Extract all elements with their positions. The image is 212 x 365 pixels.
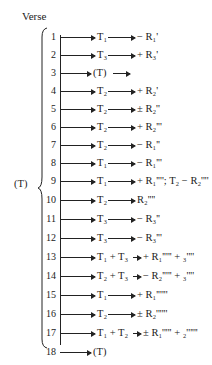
verse-number: 15	[38, 288, 56, 302]
arrow-icon	[108, 181, 135, 182]
result: + R₂'''	[137, 120, 162, 134]
verse-number: 5	[38, 102, 56, 116]
verse-number: 4	[38, 84, 56, 98]
verse-row: 9T₁+ R₁''''; T₂ − R₂''''	[0, 174, 212, 192]
result: + R₁''''''	[137, 288, 168, 302]
arrow-icon	[60, 145, 95, 146]
term: T₂	[97, 84, 107, 98]
arrow-icon	[108, 219, 135, 220]
arrow-icon	[60, 55, 95, 56]
verse-row: 4T₂+ R₂'	[0, 84, 212, 102]
term: T₃	[97, 231, 107, 245]
arrow-icon	[108, 37, 135, 38]
verse-row: 6T₂+ R₂'''	[0, 120, 212, 138]
result: ± R₂''''''	[137, 307, 167, 321]
arrow-icon	[60, 181, 95, 182]
verse-row: 17T₁ + T₂± R₁''''' + ₂''''''	[0, 326, 212, 344]
term: T₂ + T₃	[97, 269, 128, 283]
arrow-icon	[60, 314, 95, 315]
term: T₁ + T₃	[97, 250, 128, 264]
arrow-icon	[60, 163, 95, 164]
arrow-icon	[60, 73, 91, 74]
arrow-icon	[113, 73, 130, 74]
result: − R₁''	[137, 138, 160, 152]
verse-number: 14	[38, 269, 56, 283]
verse-number: 17	[38, 326, 56, 340]
arrow-icon	[108, 145, 135, 146]
term: T₁ + T₂	[97, 326, 128, 340]
arrow-icon	[108, 295, 135, 296]
verse-row: 5T₂± R₂''	[0, 102, 212, 120]
arrow-icon	[60, 257, 95, 258]
verse-number: 11	[38, 212, 56, 226]
arrow-icon	[60, 127, 95, 128]
verse-row: 7T₂− R₁''	[0, 138, 212, 156]
arrow-icon	[60, 276, 95, 277]
term: T₃	[97, 212, 107, 226]
arrow-icon	[108, 91, 135, 92]
verse-number: 9	[38, 174, 56, 188]
term: T₂	[97, 307, 107, 321]
arrow-icon	[60, 238, 95, 239]
verse-row: 3(T)	[0, 66, 212, 84]
verse-number: 7	[38, 138, 56, 152]
verse-number: 3	[38, 66, 56, 80]
verse-row: 8T₁− R₁'''	[0, 156, 212, 174]
term: T₂	[97, 102, 107, 116]
verse-row: 11T₃− R₃''	[0, 212, 212, 230]
arrow-icon	[60, 333, 95, 334]
verse-number: 12	[38, 231, 56, 245]
verse-row: 15T₁+ R₁''''''	[0, 288, 212, 306]
diagram-title: Verse	[22, 10, 46, 22]
term: T₁	[97, 174, 107, 188]
verse-row: 14T₂ + T₃− R₂''''' + ₃''''	[0, 269, 212, 287]
arrow-icon	[108, 314, 135, 315]
arrow-icon	[108, 200, 135, 201]
verse-row: 16T₂± R₂''''''	[0, 307, 212, 325]
result: ± R₁''''' + ₂''''''	[143, 326, 198, 340]
verse-number: 16	[38, 307, 56, 321]
result: + R₃'	[137, 48, 158, 62]
verse-number: 1	[38, 30, 56, 44]
arrow-icon	[60, 37, 95, 38]
verse-number: 2	[38, 48, 56, 62]
term: T₂	[97, 138, 107, 152]
verse-number: 13	[38, 250, 56, 264]
result: − R₁'	[137, 30, 158, 44]
arrow-icon	[108, 127, 135, 128]
term: (T)	[93, 345, 106, 359]
arrow-icon	[60, 219, 95, 220]
arrow-icon	[60, 295, 95, 296]
result: − R₁'''	[137, 156, 162, 170]
verse-row: 13T₁ + T₃+ R₁''''' + ₃''''	[0, 250, 212, 268]
arrow-icon	[133, 257, 141, 258]
arrow-icon	[60, 200, 95, 201]
verse-number: 10	[38, 193, 56, 207]
arrow-icon	[60, 109, 95, 110]
arrow-icon	[108, 55, 135, 56]
verse-row: 12T₃− R₃'''	[0, 231, 212, 249]
arrow-icon	[133, 276, 141, 277]
term: (T)	[93, 66, 106, 80]
arrow-icon	[108, 238, 135, 239]
result: + R₁''''' + ₃''''	[143, 250, 194, 264]
result: R₂''''	[137, 193, 155, 207]
verse-row: 1T₁− R₁'	[0, 30, 212, 48]
term: T₃	[97, 48, 107, 62]
verse-number: 8	[38, 156, 56, 170]
term: T₁	[97, 156, 107, 170]
verse-number: 6	[38, 120, 56, 134]
result: + R₂'	[137, 84, 158, 98]
verse-row: 18(T)	[0, 345, 212, 363]
result: + R₁''''; T₂ − R₂''''	[137, 174, 209, 188]
arrow-icon	[133, 333, 141, 334]
term: T₁	[97, 288, 107, 302]
result: − R₃'''	[137, 231, 162, 245]
verse-row: 10T₂R₂''''	[0, 193, 212, 211]
term: T₂	[97, 120, 107, 134]
arrow-icon	[108, 163, 135, 164]
verse-row: 2T₃+ R₃'	[0, 48, 212, 66]
term: T₁	[97, 30, 107, 44]
result: ± R₂''	[137, 102, 160, 116]
verse-number: 18	[38, 345, 56, 359]
